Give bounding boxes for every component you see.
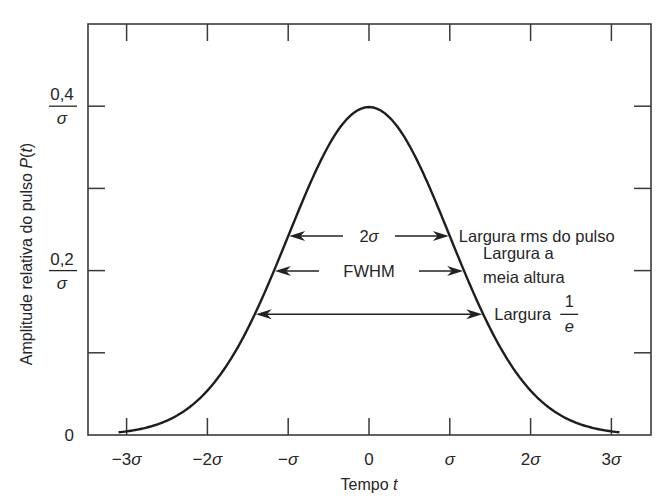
annotation-side-text: Largura: [494, 305, 552, 323]
annotation-side-text: Largura rms do pulso: [459, 227, 615, 245]
x-axis-title: Tempo t: [341, 476, 398, 493]
annotation-side-text: Largura a: [483, 244, 554, 262]
x-tick-label: σ: [445, 450, 456, 469]
annotation-rms-width: 2σLargura rms do pulso: [297, 227, 615, 245]
y-axis-title-text: Amplitude relativa do pulso: [18, 169, 35, 366]
annotation-fwhm: FWHMLargura ameia altura: [283, 244, 566, 286]
x-tick-label: 3σ: [602, 450, 622, 469]
fraction-numerator: 1: [565, 292, 574, 310]
x-axis-title-text: Tempo: [341, 476, 393, 493]
y-tick-label: 0: [65, 426, 74, 445]
y-tick-label-numerator: 0,2: [50, 250, 74, 269]
annotation-label: FWHM: [343, 262, 394, 280]
y-tick-label-numerator: 0,4: [50, 85, 74, 104]
x-tick-label: 0: [364, 450, 373, 469]
x-axis-title-var: t: [393, 476, 398, 493]
x-tick-label: 2σ: [521, 450, 541, 469]
x-tick-label: −2σ: [193, 450, 223, 469]
x-tick-label: −σ: [278, 450, 299, 469]
y-tick-label-denominator: σ: [57, 109, 68, 128]
annotation-side-text: meia altura: [483, 268, 565, 286]
y-tick-label-denominator: σ: [57, 274, 68, 293]
annotation-one-over-e-width: Largura1e: [264, 292, 579, 335]
y-axis-title-paren-close: ): [18, 143, 35, 148]
annotation-label: 2σ: [359, 227, 379, 245]
fraction-denominator: e: [565, 317, 574, 335]
pulse-width-chart: 2σLargura rms do pulsoFWHMLargura ameia …: [0, 0, 671, 500]
y-axis-title: Amplitude relativa do pulso P(t): [18, 143, 35, 365]
x-tick-label: −3σ: [112, 450, 142, 469]
y-axis-title-var: P: [18, 158, 35, 169]
